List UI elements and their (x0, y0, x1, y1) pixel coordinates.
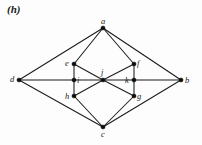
graph-edge (74, 96, 103, 127)
graph-edge (19, 28, 103, 80)
graph-vertex-h (72, 94, 76, 98)
graph-vertex-b (179, 78, 183, 82)
vertex-label-f: f (137, 59, 139, 68)
vertex-layer (17, 26, 183, 129)
vertex-label-c: c (101, 130, 105, 139)
graph-edge (103, 80, 134, 96)
graph-vertex-g (132, 94, 136, 98)
vertex-label-d: d (10, 75, 14, 84)
graph-vertex-j (101, 78, 105, 82)
vertex-label-j: j (101, 68, 103, 77)
graph-vertex-k (132, 78, 136, 82)
vertex-label-e: e (65, 59, 69, 68)
vertex-label-b: b (185, 76, 189, 85)
vertex-label-i: i (77, 76, 79, 85)
graph-vertex-i (72, 78, 76, 82)
graph-edge (103, 64, 134, 80)
edge-layer (19, 28, 181, 127)
graph-edge (103, 28, 181, 80)
vertex-label-h: h (65, 92, 69, 101)
graph-edge (103, 80, 181, 127)
figure-panel: (h) abcdefghijk (0, 0, 202, 145)
graph-edge (74, 28, 103, 64)
graph-vertex-f (132, 62, 136, 66)
graph-vertex-e (72, 62, 76, 66)
graph-vertex-d (17, 78, 21, 82)
vertex-label-k: k (125, 76, 129, 85)
vertex-label-a: a (101, 17, 105, 26)
vertex-label-g: g (137, 92, 141, 101)
graph-vertex-a (101, 26, 105, 30)
